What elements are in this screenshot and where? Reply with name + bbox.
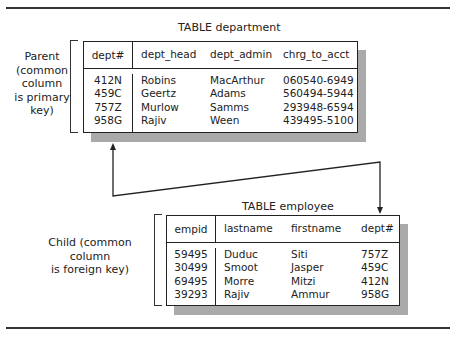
empid-column: 59495 30499 69495 39293 [167, 248, 216, 306]
lastname-column: Duduc Smoot Morre Rajiv [216, 248, 283, 306]
column-header: firstname [283, 222, 353, 235]
dept-fk-column: 757Z 459C 412N 958G [353, 248, 398, 306]
child-label: Child (common column is foreign key) [28, 236, 152, 277]
employee-header-row: empid lastname firstname dept# [167, 216, 399, 243]
employee-table-title: TABLE employee [242, 200, 334, 213]
arrowhead-down-icon [377, 207, 383, 214]
arrowhead-up-icon [110, 143, 116, 150]
child-bracket [154, 214, 162, 306]
column-header: lastname [216, 222, 283, 235]
column-header: dept# [353, 222, 398, 235]
employee-table: empid lastname firstname dept# 59495 304… [166, 215, 400, 306]
column-header: empid [167, 216, 216, 242]
employee-body: 59495 30499 69495 39293 Duduc Smoot Morr… [167, 243, 399, 306]
firstname-column: Siti Jasper Mitzi Ammur [283, 248, 353, 306]
